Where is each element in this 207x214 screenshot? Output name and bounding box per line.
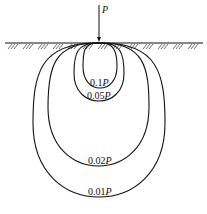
load-label: P — [101, 4, 108, 15]
ground-hatching — [8, 44, 198, 49]
arrow-head-icon — [97, 37, 101, 42]
isobar-label: 0.02P — [88, 155, 112, 166]
isobar-label: 0.05P — [87, 90, 111, 101]
isobar-0-02p — [48, 43, 149, 166]
isobar-label: 0.1P — [90, 77, 109, 88]
isobar-label: 0.01P — [88, 186, 112, 197]
stress-isobars: 0.1P0.05P0.02P0.01P — [33, 43, 165, 197]
diagram-svg: 0.1P0.05P0.02P0.01P P — [0, 0, 207, 214]
pressure-bulb-diagram: 0.1P0.05P0.02P0.01P P — [0, 0, 207, 214]
